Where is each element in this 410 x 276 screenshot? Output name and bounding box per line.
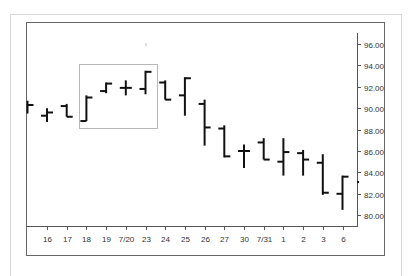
- y-tick-label: 90.00: [364, 105, 385, 114]
- ohlc-bar: [179, 77, 191, 116]
- y-tick-label: 92.00: [364, 84, 385, 93]
- x-tick-label: 7/31: [257, 235, 273, 244]
- ohlc-bar: [277, 138, 289, 175]
- ohlc-bar: [61, 104, 73, 117]
- ohlc-bar: [218, 125, 230, 157]
- x-tick-label: 17: [63, 235, 72, 244]
- y-tick-label: 82.00: [364, 191, 385, 200]
- ohlc-bar: [317, 154, 329, 195]
- x-axis-ticks: 161718197/202324252627307/311236: [43, 226, 346, 244]
- x-tick-label: 6: [341, 235, 346, 244]
- ohlc-bar: [80, 95, 92, 121]
- ohlc-bar: [41, 108, 53, 122]
- ohlc-bar: [100, 83, 112, 94]
- y-tick-label: 80.00: [364, 212, 385, 221]
- x-tick-label: 18: [82, 235, 91, 244]
- x-tick-label: 7/20: [119, 235, 135, 244]
- y-tick-label: 86.00: [364, 148, 385, 157]
- y-tick-label: 84.00: [364, 169, 385, 178]
- y-tick-label: 96.00: [364, 41, 385, 50]
- y-tick-label: 88.00: [364, 127, 385, 136]
- ohlc-bar: [159, 80, 171, 99]
- ohlc-bars: [28, 71, 359, 210]
- ohlc-bar: [140, 71, 152, 95]
- ohlc-bar: [199, 100, 211, 146]
- ohlc-bar: [28, 101, 34, 114]
- ohlc-bar: [258, 138, 270, 159]
- x-tick-label: 1: [281, 235, 286, 244]
- ohlc-bar: [337, 176, 349, 210]
- x-tick-label: 30: [240, 235, 249, 244]
- x-tick-label: 24: [161, 235, 170, 244]
- stray-mark: [146, 43, 147, 46]
- ohlc-bar: [238, 145, 250, 169]
- x-tick-label: 2: [301, 235, 306, 244]
- x-tick-label: 23: [142, 235, 151, 244]
- ohlc-bar: [297, 150, 309, 176]
- x-tick-label: 16: [43, 235, 52, 244]
- y-tick-label: 94.00: [364, 62, 385, 71]
- x-tick-label: 19: [102, 235, 111, 244]
- x-tick-label: 25: [181, 235, 190, 244]
- x-tick-label: 26: [201, 235, 210, 244]
- x-tick-label: 3: [321, 235, 326, 244]
- y-axis-ticks: 96.0094.0092.0090.0088.0086.0084.0082.00…: [357, 41, 385, 221]
- x-tick-label: 27: [220, 235, 229, 244]
- ohlc-bar: [120, 80, 132, 95]
